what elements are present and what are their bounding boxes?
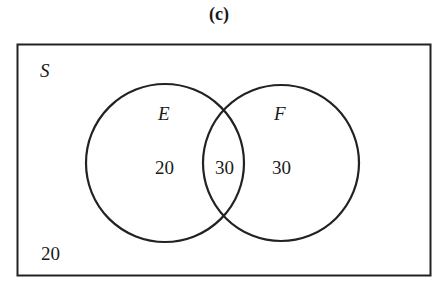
set-f-label: F <box>274 103 286 125</box>
f-only-value: 30 <box>272 157 291 179</box>
set-e-label: E <box>158 103 170 125</box>
e-only-value: 20 <box>155 157 174 179</box>
intersection-value: 30 <box>215 157 234 179</box>
venn-diagram <box>0 0 438 285</box>
universe-label: S <box>40 60 50 82</box>
outside-value: 20 <box>41 243 60 265</box>
